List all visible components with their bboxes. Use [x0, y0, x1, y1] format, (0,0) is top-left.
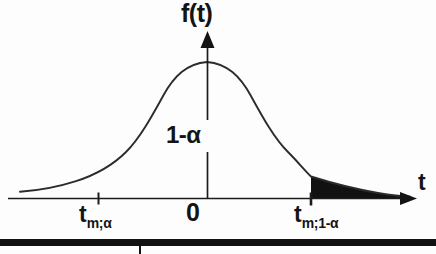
- tick-label-lower-critical: tm;α: [79, 203, 112, 230]
- t-distribution-figure: f(t) 1-α 0 t tm;α tm;1-α: [0, 0, 436, 254]
- x-axis-arrowhead: [400, 192, 417, 205]
- y-axis-arrowhead: [201, 31, 215, 48]
- page-rule-bar: [0, 239, 436, 246]
- y-axis-title: f(t): [181, 1, 212, 26]
- confidence-area-label: 1-α: [166, 123, 201, 147]
- density-curve: [20, 62, 410, 197]
- origin-label: 0: [186, 200, 200, 225]
- x-axis-title: t: [418, 171, 426, 194]
- tick-label-lower-base: t: [79, 201, 87, 227]
- page-rule-bar-tick: [139, 246, 141, 254]
- tick-label-upper-subscript: m;1-α: [302, 215, 339, 231]
- tick-label-lower-subscript: m;α: [87, 215, 112, 231]
- tick-label-upper-base: t: [294, 201, 302, 227]
- tick-label-upper-critical: tm;1-α: [294, 203, 338, 230]
- plot-area: [0, 0, 436, 254]
